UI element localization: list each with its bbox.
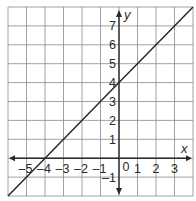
y-axis-label: y	[123, 7, 132, 22]
x-tick-label: 3	[171, 162, 178, 176]
x-axis-left-arrow-icon	[9, 155, 15, 161]
y-tick-label: 5	[109, 57, 116, 71]
x-tick-label: 0	[123, 160, 130, 174]
y-axis-up-arrow-icon	[116, 10, 122, 17]
x-axis-label: x	[180, 141, 188, 156]
y-tick-label: 7	[109, 19, 116, 33]
y-tick-label: 4	[109, 76, 116, 90]
coordinate-graph: –5–4–3–2–10123–11234567 x y	[0, 0, 196, 201]
x-tick-label: –3	[56, 162, 70, 176]
y-axis-down-arrow-icon	[116, 188, 122, 195]
y-tick-label: 2	[109, 114, 116, 128]
x-tick-label: –2	[74, 162, 88, 176]
y-tick-label: 3	[109, 95, 116, 109]
y-tick-label: 1	[109, 133, 116, 147]
y-tick-label: 6	[109, 38, 116, 52]
y-tick-label: –1	[102, 171, 116, 185]
x-tick-label: 2	[153, 162, 160, 176]
x-tick-label: 1	[134, 162, 141, 176]
